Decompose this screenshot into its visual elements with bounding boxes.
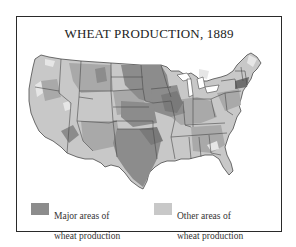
legend-swatch-major — [31, 203, 49, 215]
legend-major: Major areas of wheat production — [31, 201, 120, 247]
legend-label-major: Major areas of wheat production — [54, 201, 120, 247]
map-frame: WHEAT PRODUCTION, 1889 — [16, 16, 282, 232]
legend-label-other: Other areas of wheat production — [177, 201, 243, 247]
legend-swatch-other — [154, 203, 172, 215]
legend-other: Other areas of wheat production — [154, 201, 243, 247]
map-title: WHEAT PRODUCTION, 1889 — [17, 26, 281, 42]
us-wheat-map — [21, 41, 279, 199]
